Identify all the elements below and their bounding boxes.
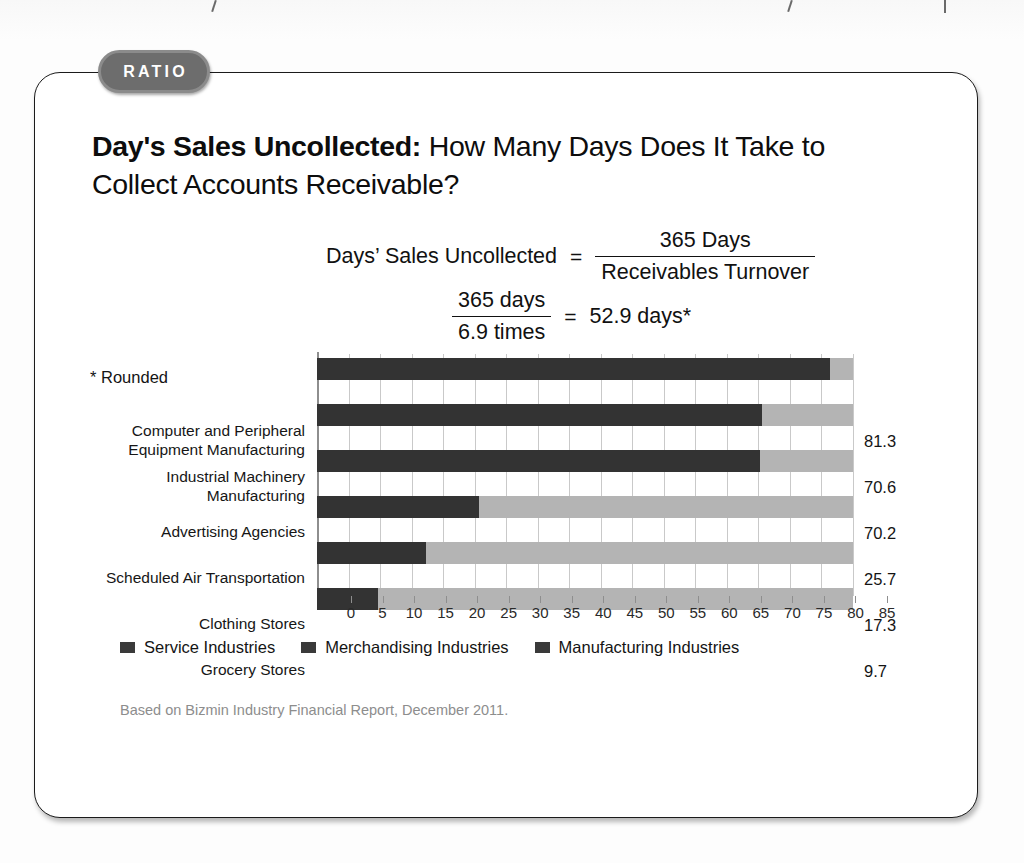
chart-category-label: Clothing Stores bbox=[5, 614, 305, 634]
x-tick-label: 60 bbox=[721, 604, 738, 621]
bar bbox=[317, 404, 762, 426]
bar-track bbox=[317, 542, 853, 564]
bar-track bbox=[317, 404, 853, 426]
formula-numerator: 365 Days bbox=[595, 228, 815, 256]
chart-legend: Service IndustriesMerchandising Industri… bbox=[120, 638, 739, 657]
category-label-line: Grocery Stores bbox=[5, 660, 305, 680]
x-tick-label: 15 bbox=[437, 604, 454, 621]
computation-numerator: 365 days bbox=[452, 288, 551, 316]
scan-artifact-band bbox=[0, 0, 1024, 40]
legend-item: Service Industries bbox=[120, 638, 275, 657]
computation-result: 52.9 days* bbox=[590, 304, 692, 329]
x-tick-label: 55 bbox=[689, 604, 706, 621]
x-tick-mark bbox=[414, 596, 415, 603]
category-label-line: Computer and Peripheral bbox=[5, 421, 305, 441]
page-title-bold: Day's Sales Uncollected: bbox=[92, 130, 421, 162]
formula-lhs: Days’ Sales Uncollected bbox=[326, 244, 557, 269]
x-tick-label: 80 bbox=[847, 604, 864, 621]
category-label-line: Manufacturing bbox=[5, 486, 305, 506]
bar bbox=[317, 450, 760, 472]
bar-track bbox=[317, 496, 853, 518]
bar-track bbox=[317, 450, 853, 472]
chart-category-label: Computer and PeripheralEquipment Manufac… bbox=[5, 421, 305, 461]
legend-item: Manufacturing Industries bbox=[535, 638, 740, 657]
category-label-line: Scheduled Air Transportation bbox=[5, 568, 305, 588]
ratio-badge-label: RATIO bbox=[120, 63, 188, 81]
x-tick-label: 5 bbox=[378, 604, 386, 621]
x-tick-label: 40 bbox=[595, 604, 612, 621]
x-tick-mark bbox=[635, 596, 636, 603]
category-label-line: Equipment Manufacturing bbox=[5, 440, 305, 460]
category-label-line: Advertising Agencies bbox=[5, 522, 305, 542]
chart-category-label: Scheduled Air Transportation bbox=[5, 568, 305, 588]
x-tick-mark bbox=[666, 596, 667, 603]
x-tick-mark bbox=[509, 596, 510, 603]
formula-denominator: Receivables Turnover bbox=[595, 256, 815, 285]
x-tick-mark bbox=[729, 596, 730, 603]
bar bbox=[317, 358, 830, 380]
formula-computation: 365 days 6.9 times = 52.9 days* bbox=[452, 288, 691, 345]
legend-label: Service Industries bbox=[144, 638, 275, 657]
page-root: RATIO Day's Sales Uncollected: How Many … bbox=[0, 0, 1024, 863]
bar-value-label: 25.7 bbox=[864, 570, 896, 589]
chart-category-labels: Computer and PeripheralEquipment Manufac… bbox=[5, 352, 305, 602]
x-tick-label: 85 bbox=[879, 604, 896, 621]
chart-gridline bbox=[853, 354, 854, 596]
computation-equals: = bbox=[564, 305, 576, 329]
legend-label: Merchandising Industries bbox=[325, 638, 508, 657]
x-tick-mark bbox=[446, 596, 447, 603]
x-tick-mark bbox=[477, 596, 478, 603]
category-label-line: Industrial Machinery bbox=[5, 467, 305, 487]
formula-definition: Days’ Sales Uncollected = 365 Days Recei… bbox=[326, 228, 815, 285]
x-tick-label: 0 bbox=[347, 604, 355, 621]
x-tick-label: 30 bbox=[532, 604, 549, 621]
x-tick-mark bbox=[698, 596, 699, 603]
x-tick-mark bbox=[603, 596, 604, 603]
x-tick-mark bbox=[572, 596, 573, 603]
ratio-badge: RATIO bbox=[98, 50, 210, 93]
category-label-line: Clothing Stores bbox=[5, 614, 305, 634]
x-tick-mark bbox=[761, 596, 762, 603]
legend-label: Manufacturing Industries bbox=[559, 638, 740, 657]
formula-fraction: 365 Days Receivables Turnover bbox=[595, 228, 815, 285]
x-tick-mark bbox=[824, 596, 825, 603]
legend-swatch-icon bbox=[301, 642, 316, 653]
computation-denominator: 6.9 times bbox=[452, 316, 551, 345]
chart-category-label: Industrial MachineryManufacturing bbox=[5, 467, 305, 507]
x-tick-label: 50 bbox=[658, 604, 675, 621]
x-tick-label: 70 bbox=[784, 604, 801, 621]
legend-swatch-icon bbox=[120, 642, 135, 653]
bar-track bbox=[317, 588, 853, 610]
bar-value-label: 70.6 bbox=[864, 478, 896, 497]
page-title: Day's Sales Uncollected: How Many Days D… bbox=[92, 127, 862, 203]
x-tick-label: 75 bbox=[816, 604, 833, 621]
chart-category-label: Advertising Agencies bbox=[5, 522, 305, 542]
x-tick-label: 20 bbox=[469, 604, 486, 621]
x-tick-mark bbox=[383, 596, 384, 603]
bar-value-label: 70.2 bbox=[864, 524, 896, 543]
x-tick-mark bbox=[351, 596, 352, 603]
scan-artifact-tick bbox=[944, 0, 946, 13]
bar-value-label: 9.7 bbox=[864, 662, 887, 681]
x-tick-label: 10 bbox=[406, 604, 423, 621]
chart-category-label: Grocery Stores bbox=[5, 660, 305, 680]
x-tick-label: 35 bbox=[563, 604, 580, 621]
bar-track bbox=[317, 358, 853, 380]
x-tick-mark bbox=[540, 596, 541, 603]
computation-fraction: 365 days 6.9 times bbox=[452, 288, 551, 345]
legend-item: Merchandising Industries bbox=[301, 638, 508, 657]
x-tick-label: 25 bbox=[500, 604, 517, 621]
bar bbox=[317, 496, 479, 518]
bar bbox=[317, 542, 426, 564]
x-tick-label: 45 bbox=[626, 604, 643, 621]
legend-swatch-icon bbox=[535, 642, 550, 653]
source-note: Based on Bizmin Industry Financial Repor… bbox=[120, 702, 508, 718]
chart-plot-area bbox=[317, 354, 853, 596]
bar-value-label: 81.3 bbox=[864, 432, 896, 451]
formula-equals: = bbox=[570, 245, 582, 269]
x-tick-label: 65 bbox=[753, 604, 770, 621]
x-tick-mark bbox=[887, 596, 888, 603]
x-tick-mark bbox=[855, 596, 856, 603]
x-tick-mark bbox=[792, 596, 793, 603]
